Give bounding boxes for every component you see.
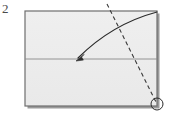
paper-sheet — [25, 11, 157, 106]
origami-figure-svg — [0, 0, 171, 119]
origami-step-diagram: 2 — [0, 0, 171, 119]
